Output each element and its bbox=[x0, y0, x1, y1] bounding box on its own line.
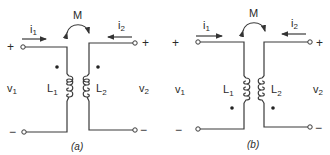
mutual-coupling-arc bbox=[243, 23, 265, 31]
wire-bottom-right bbox=[89, 101, 133, 130]
terminal-bottom-left bbox=[22, 130, 26, 134]
inductor-L2-coil bbox=[83, 74, 89, 101]
panel-b: + − + − M i1 i2 v1 v2 L1 L2 (b) bbox=[172, 7, 324, 150]
wire-top-right bbox=[89, 43, 133, 74]
inductor-L2-label: L2 bbox=[96, 82, 107, 97]
minus-sign-left: − bbox=[9, 125, 16, 139]
voltage-v2-label: v2 bbox=[313, 83, 324, 97]
panel-b-caption: (b) bbox=[247, 139, 259, 150]
terminal-bottom-right bbox=[133, 128, 137, 132]
mutual-inductance-label: M bbox=[73, 9, 82, 21]
polarity-dot-L2 bbox=[96, 65, 100, 69]
polarity-dot-L1 bbox=[55, 65, 59, 69]
inductor-L2-label: L2 bbox=[271, 83, 282, 98]
wire-bottom-right bbox=[264, 103, 308, 127]
current-i1-label: i1 bbox=[30, 23, 37, 37]
panel-a-caption: (a) bbox=[71, 141, 83, 152]
inductor-L1-coil bbox=[244, 76, 250, 103]
wire-top-left bbox=[200, 42, 244, 76]
inductor-L1-label: L1 bbox=[223, 83, 234, 98]
polarity-dot-L1 bbox=[230, 106, 234, 110]
terminal-top-left bbox=[21, 45, 25, 49]
plus-sign-right: + bbox=[142, 36, 149, 50]
wire-bottom-left bbox=[26, 101, 67, 132]
voltage-v2-label: v2 bbox=[139, 82, 150, 96]
minus-sign-right: − bbox=[315, 121, 322, 135]
voltage-v1-label: v1 bbox=[7, 82, 18, 96]
wire-bottom-left bbox=[200, 103, 244, 129]
minus-sign-left: − bbox=[175, 123, 182, 137]
current-i2-label: i2 bbox=[118, 19, 125, 33]
inductor-L1-label: L1 bbox=[47, 82, 58, 97]
minus-sign-right: − bbox=[140, 123, 147, 137]
wire-top-left bbox=[25, 47, 67, 74]
coupled-inductors-diagram: + − + − M i1 i2 v1 v2 L1 L2 (a) bbox=[0, 0, 330, 155]
polarity-dot-L2 bbox=[271, 106, 275, 110]
current-i2-label: i2 bbox=[291, 17, 298, 31]
inductor-L1-coil bbox=[67, 74, 73, 101]
wire-top-right bbox=[264, 42, 308, 76]
voltage-v1-label: v1 bbox=[175, 83, 186, 97]
terminal-top-left bbox=[196, 40, 200, 44]
terminal-bottom-right bbox=[308, 125, 312, 129]
terminal-top-right bbox=[308, 40, 312, 44]
plus-sign-left: + bbox=[7, 40, 14, 54]
mutual-coupling-arc bbox=[67, 25, 89, 33]
inductor-L2-coil bbox=[258, 76, 264, 103]
terminal-bottom-left bbox=[196, 127, 200, 131]
current-i1-label: i1 bbox=[203, 19, 210, 33]
terminal-top-right bbox=[133, 41, 137, 45]
panel-a: + − + − M i1 i2 v1 v2 L1 L2 (a) bbox=[7, 9, 150, 152]
plus-sign-left: + bbox=[172, 36, 179, 50]
plus-sign-right: + bbox=[316, 36, 323, 50]
mutual-inductance-label: M bbox=[249, 7, 258, 19]
